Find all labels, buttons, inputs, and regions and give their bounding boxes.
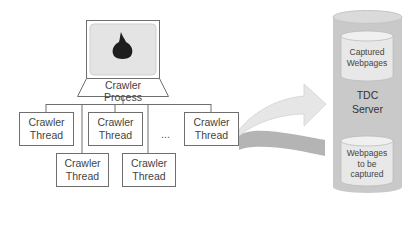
store-label-line: captured: [341, 169, 393, 180]
thread-label-line1: Crawler: [64, 157, 100, 170]
store-label-line: Webpages: [341, 148, 393, 159]
thread-label-line2: Thread: [99, 129, 132, 142]
thread-label-line2: Thread: [66, 170, 99, 183]
server-label-line2: Server: [333, 102, 402, 116]
webpages-to-capture-label: Webpages to be captured: [341, 148, 393, 180]
tdc-server-label: TDC Server: [333, 88, 402, 116]
store-label-line: Webpages: [341, 58, 393, 69]
store-label-line: Captured: [341, 47, 393, 58]
thread-label-line1: Crawler: [28, 116, 64, 129]
crawler-thread-2: Crawler Thread: [88, 112, 143, 146]
server-label-line1: TDC: [333, 88, 402, 102]
thread-label-line1: Crawler: [193, 116, 229, 129]
crawler-thread-3: Crawler Thread: [56, 153, 109, 187]
thread-label-line2: Thread: [195, 129, 228, 142]
crawler-thread-4: Crawler Thread: [122, 153, 176, 187]
curved-arrow: [239, 84, 326, 156]
crawler-process-label: Crawler Process: [86, 79, 160, 103]
ellipsis: ...: [161, 128, 170, 140]
crawler-process-line1: Crawler: [86, 79, 160, 91]
crawler-thread-1: Crawler Thread: [19, 112, 74, 146]
crawler-process-line2: Process: [86, 91, 160, 103]
thread-label-line1: Crawler: [97, 116, 133, 129]
crawler-thread-n: Crawler Thread: [184, 112, 239, 146]
captured-webpages-label: Captured Webpages: [341, 47, 393, 69]
thread-label-line1: Crawler: [131, 157, 167, 170]
thread-label-line2: Thread: [132, 170, 165, 183]
thread-label-line2: Thread: [30, 129, 63, 142]
store-label-line: to be: [341, 159, 393, 170]
